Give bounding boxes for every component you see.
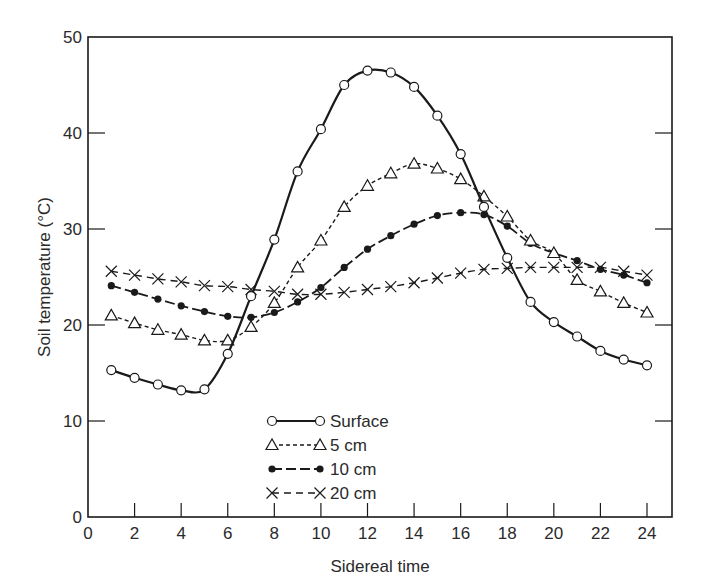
circle-marker-icon [549, 318, 558, 327]
x-tick-label: 6 [223, 524, 232, 543]
triangle-marker-icon [314, 439, 326, 450]
circle-marker-icon [268, 417, 277, 426]
series-line [111, 213, 647, 318]
legend-label: 5 cm [330, 436, 367, 455]
legend: Surface5 cm10 cm20 cm [266, 412, 389, 503]
legend-item: 10 cm [268, 460, 376, 479]
dot-marker-icon [620, 271, 627, 278]
circle-marker-icon [316, 417, 325, 426]
dot-marker-icon [131, 289, 138, 296]
triangle-marker-icon [292, 261, 304, 272]
y-tick-label: 50 [63, 28, 82, 47]
series-line [111, 267, 647, 294]
cross-marker-icon [315, 488, 326, 499]
soil-temperature-chart: 01020304050 024681012141618202224 Surfac… [0, 0, 705, 585]
dot-marker-icon [434, 212, 441, 219]
y-tick-label: 20 [63, 316, 82, 335]
series-10-cm [108, 209, 651, 321]
series-line [111, 164, 647, 342]
dot-marker-icon [457, 209, 464, 216]
dot-marker-icon [154, 295, 161, 302]
y-axis-ticks: 01020304050 [63, 28, 672, 527]
legend-item: 5 cm [266, 436, 367, 455]
circle-marker-icon [410, 82, 419, 91]
circle-marker-icon [456, 150, 465, 159]
x-tick-label: 10 [311, 524, 330, 543]
legend-item: 20 cm [267, 484, 377, 503]
dot-marker-icon [224, 313, 231, 320]
circle-marker-icon [479, 202, 488, 211]
dot-marker-icon [387, 232, 394, 239]
x-tick-label: 20 [544, 524, 563, 543]
circle-marker-icon [316, 125, 325, 134]
dot-marker-icon [178, 302, 185, 309]
circle-marker-icon [107, 366, 116, 375]
triangle-marker-icon [105, 309, 117, 320]
x-tick-label: 24 [638, 524, 657, 543]
series-5-cm [105, 158, 653, 345]
triangle-marker-icon [245, 321, 257, 332]
series-layer [105, 66, 653, 395]
circle-marker-icon [177, 386, 186, 395]
circle-marker-icon [526, 297, 535, 306]
dot-marker-icon [643, 279, 650, 286]
x-tick-label: 12 [358, 524, 377, 543]
circle-marker-icon [153, 380, 162, 389]
circle-marker-icon [619, 355, 628, 364]
dot-marker-icon [504, 223, 511, 230]
y-tick-label: 10 [63, 412, 82, 431]
triangle-marker-icon [268, 297, 280, 308]
y-tick-label: 40 [63, 124, 82, 143]
circle-marker-icon [433, 111, 442, 120]
legend-label: Surface [330, 412, 389, 431]
circle-marker-icon [596, 346, 605, 355]
x-tick-label: 18 [498, 524, 517, 543]
legend-label: 10 cm [330, 460, 376, 479]
dot-marker-icon [268, 465, 275, 472]
circle-marker-icon [130, 373, 139, 382]
circle-marker-icon [386, 68, 395, 77]
triangle-marker-icon [618, 297, 630, 308]
triangle-marker-icon [175, 329, 187, 340]
circle-marker-icon [293, 167, 302, 176]
x-tick-label: 16 [451, 524, 470, 543]
legend-item: Surface [268, 412, 389, 431]
triangle-marker-icon [338, 201, 350, 212]
x-tick-label: 4 [176, 524, 185, 543]
dot-marker-icon [316, 465, 323, 472]
y-axis-label: Soil temperature (°C) [35, 197, 54, 357]
circle-marker-icon [223, 349, 232, 358]
circle-marker-icon [503, 253, 512, 262]
cross-marker-icon [455, 268, 466, 279]
triangle-marker-icon [362, 180, 374, 191]
y-tick-label: 30 [63, 220, 82, 239]
cross-marker-icon [432, 272, 443, 283]
circle-marker-icon [363, 66, 372, 75]
dot-marker-icon [201, 308, 208, 315]
x-tick-label: 14 [405, 524, 424, 543]
dot-marker-icon [574, 257, 581, 264]
triangle-marker-icon [385, 167, 397, 178]
dot-marker-icon [271, 309, 278, 316]
circle-marker-icon [270, 235, 279, 244]
triangle-marker-icon [266, 439, 278, 450]
circle-marker-icon [340, 81, 349, 90]
triangle-marker-icon [641, 307, 653, 318]
circle-marker-icon [247, 292, 256, 301]
x-axis-ticks: 024681012141618202224 [83, 503, 656, 543]
triangle-marker-icon [129, 317, 141, 328]
circle-marker-icon [573, 332, 582, 341]
dot-marker-icon [364, 246, 371, 253]
x-axis-label: Sidereal time [330, 557, 429, 576]
dot-marker-icon [410, 221, 417, 228]
triangle-marker-icon [455, 173, 467, 184]
dot-marker-icon [597, 266, 604, 273]
series-surface [107, 66, 652, 395]
triangle-marker-icon [315, 235, 327, 246]
x-tick-label: 8 [270, 524, 279, 543]
triangle-marker-icon [594, 285, 606, 296]
y-tick-label: 0 [73, 508, 82, 527]
circle-marker-icon [643, 361, 652, 370]
legend-label: 20 cm [330, 484, 376, 503]
dot-marker-icon [108, 282, 115, 289]
